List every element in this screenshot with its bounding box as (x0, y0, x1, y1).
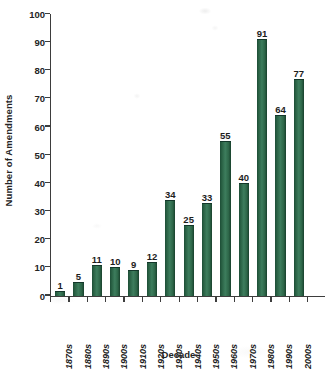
bar-slot: 34 (161, 14, 179, 296)
bar: 1 (55, 291, 65, 296)
bar-value-label: 11 (92, 254, 102, 265)
y-tick-mark (45, 125, 50, 126)
bar-slot: 33 (198, 14, 216, 296)
bar: 40 (239, 183, 249, 296)
x-axis-tick-labels: 1870s1880s1890s1900s1910s1920s1930s1940s… (51, 300, 308, 346)
bar: 11 (92, 265, 102, 296)
bar-slot: 55 (216, 14, 234, 296)
bar-slot: 9 (124, 14, 142, 296)
y-tick-mark (45, 41, 50, 42)
bar-value-label: 64 (275, 104, 286, 115)
plot-area: 1511109123425335540916477 (50, 14, 307, 297)
y-tick-label: 90 (34, 37, 45, 48)
bar-value-label: 10 (110, 256, 121, 267)
bar: 34 (165, 200, 175, 296)
bar-value-label: 77 (294, 68, 305, 79)
bar: 10 (110, 267, 120, 295)
y-tick-mark (45, 266, 50, 267)
y-tick-mark (45, 238, 50, 239)
y-tick-mark (45, 69, 50, 70)
y-tick-label: 20 (34, 234, 45, 245)
bar-slot: 77 (290, 14, 308, 296)
y-tick-label: 70 (34, 93, 45, 104)
bar-value-label: 55 (220, 130, 231, 141)
bar-value-label: 5 (76, 271, 81, 282)
bar: 55 (220, 141, 230, 296)
bar-slot: 91 (253, 14, 271, 296)
y-tick-label: 100 (29, 9, 45, 20)
bar-value-label: 9 (131, 259, 136, 270)
y-tick-mark (45, 97, 50, 98)
x-axis-line (50, 296, 325, 297)
bar-value-label: 25 (183, 214, 194, 225)
bar-slot: 11 (88, 14, 106, 296)
y-axis-tick-labels: 0102030405060708090100 (18, 0, 48, 300)
y-tick-label: 80 (34, 65, 45, 76)
y-tick-mark (45, 13, 50, 14)
bar-value-label: 1 (58, 280, 63, 291)
bar: 12 (147, 262, 157, 296)
bar: 25 (184, 225, 194, 295)
y-tick-label: 50 (34, 149, 45, 160)
bar-value-label: 40 (238, 172, 249, 183)
bar-value-label: 33 (202, 192, 213, 203)
y-axis-title-text: Number of Amendments (4, 94, 15, 206)
bar: 5 (73, 282, 83, 296)
bar-value-label: 91 (257, 28, 268, 39)
y-axis-title: Number of Amendments (0, 0, 18, 300)
y-tick-mark (45, 182, 50, 183)
y-tick-label: 60 (34, 121, 45, 132)
bar-slot: 25 (180, 14, 198, 296)
y-tick-mark (45, 154, 50, 155)
bar: 91 (257, 39, 267, 295)
bar: 64 (275, 115, 285, 295)
bar-slot: 10 (106, 14, 124, 296)
y-tick-label: 30 (34, 206, 45, 217)
y-tick-mark (45, 210, 50, 211)
bar: 33 (202, 203, 212, 296)
bar-series: 1511109123425335540916477 (51, 14, 307, 296)
bar-value-label: 34 (165, 189, 176, 200)
bar: 77 (294, 79, 304, 296)
y-tick-mark (45, 294, 50, 295)
y-tick-label: 40 (34, 177, 45, 188)
bar-slot: 40 (235, 14, 253, 296)
bar-value-label: 12 (147, 251, 158, 262)
bar-slot: 5 (69, 14, 87, 296)
bar-slot: 64 (271, 14, 289, 296)
y-tick-label: 10 (34, 262, 45, 273)
bar-slot: 1 (51, 14, 69, 296)
bar-slot: 12 (143, 14, 161, 296)
bar: 9 (128, 270, 138, 295)
x-axis-title: Decade (50, 349, 307, 360)
